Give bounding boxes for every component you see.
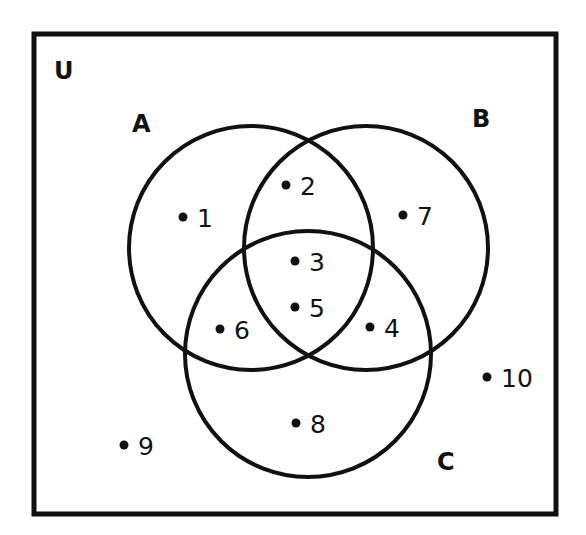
element-5: 5 xyxy=(291,294,325,323)
element-dot-icon xyxy=(483,373,492,382)
element-dot-icon xyxy=(291,257,300,266)
element-label: 9 xyxy=(138,432,154,461)
element-dot-icon xyxy=(282,181,291,190)
element-dot-icon xyxy=(292,419,301,428)
set-circle-b xyxy=(244,126,488,370)
set-elements: 12345678910 xyxy=(120,172,533,461)
element-10: 10 xyxy=(483,364,533,393)
element-8: 8 xyxy=(292,410,326,439)
element-dot-icon xyxy=(216,325,225,334)
element-7: 7 xyxy=(399,202,433,231)
element-label: 8 xyxy=(310,410,326,439)
element-label: 7 xyxy=(417,202,433,231)
element-label: 4 xyxy=(384,314,400,343)
venn-diagram: U ABC 12345678910 xyxy=(0,0,586,535)
element-4: 4 xyxy=(366,314,400,343)
element-dot-icon xyxy=(291,303,300,312)
element-label: 6 xyxy=(234,316,250,345)
element-label: 3 xyxy=(309,248,325,277)
element-dot-icon xyxy=(399,211,408,220)
set-label-c: C xyxy=(437,448,455,476)
set-label-b: B xyxy=(472,105,490,133)
element-6: 6 xyxy=(216,316,250,345)
element-2: 2 xyxy=(282,172,316,201)
element-label: 2 xyxy=(300,172,316,201)
element-label: 5 xyxy=(309,294,325,323)
element-dot-icon xyxy=(366,323,375,332)
element-label: 10 xyxy=(501,364,533,393)
element-3: 3 xyxy=(291,248,325,277)
set-circle-a xyxy=(129,126,373,370)
element-label: 1 xyxy=(197,204,213,233)
element-1: 1 xyxy=(179,204,213,233)
element-9: 9 xyxy=(120,432,154,461)
element-dot-icon xyxy=(120,441,129,450)
element-dot-icon xyxy=(179,213,188,222)
set-label-a: A xyxy=(132,110,151,138)
universe-label: U xyxy=(54,57,74,85)
